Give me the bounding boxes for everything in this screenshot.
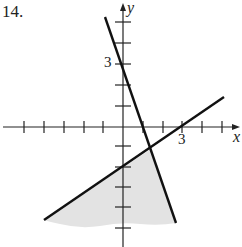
y-axis-arrow-icon (120, 3, 126, 11)
y-tick-label-3: 3 (104, 54, 112, 71)
shaded-region (44, 149, 176, 227)
x-tick-label-3: 3 (178, 131, 186, 148)
graph (0, 0, 242, 247)
y-axis-label: y (127, 0, 134, 17)
x-axis-label: x (233, 128, 240, 146)
